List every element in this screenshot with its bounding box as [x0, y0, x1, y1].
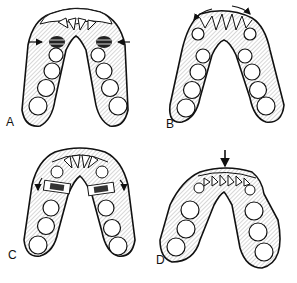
panel-b — [170, 6, 284, 122]
panel-d — [160, 150, 280, 268]
premolar-band-left — [49, 36, 65, 48]
panel-a — [22, 8, 130, 126]
dental-arch-diagram — [0, 0, 297, 283]
panel-label-b: B — [166, 117, 174, 131]
panel-label-d: D — [156, 253, 165, 267]
premolar-band-right — [96, 36, 112, 48]
panel-c — [24, 148, 135, 256]
panel-label-a: A — [6, 115, 14, 129]
panel-label-c: C — [8, 248, 17, 262]
